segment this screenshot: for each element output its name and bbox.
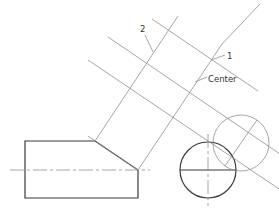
- leader-2: [145, 35, 153, 52]
- label-2: 2: [140, 24, 145, 34]
- auxiliary-diameter-line: [225, 120, 257, 166]
- front-view-outline: [25, 141, 138, 198]
- reference-line-center: [88, 60, 279, 191]
- reference-line-2: [108, 37, 279, 154]
- leader-center: [195, 77, 207, 82]
- chamfer-extension-line: [88, 136, 138, 170]
- label-1: 1: [227, 51, 232, 61]
- label-center: Center: [208, 74, 237, 84]
- auxiliary-view-drawing: 2 1 Center: [0, 0, 279, 214]
- projection-line-far: [222, 4, 260, 44]
- reference-line-1: [152, 19, 258, 91]
- projection-line-upper: [95, 16, 178, 141]
- projection-line-lower: [138, 44, 222, 170]
